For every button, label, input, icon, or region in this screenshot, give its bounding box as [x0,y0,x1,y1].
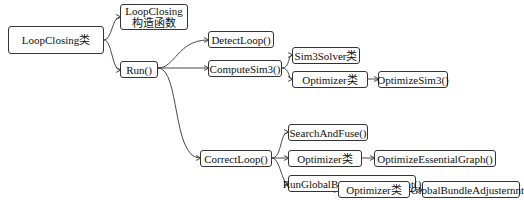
node-optimizeessentialgraph: OptimizeEssentialGraph() [374,150,496,167]
node-detectloop: DetectLoop() [208,31,274,48]
node-optimizer-class-2: Optimizer类 [288,150,362,167]
ctor-line-2: 构造函数 [132,17,176,29]
node-searchandfuse: SearchAndFuse() [288,124,368,141]
node-globalbundleadjustment: GlobalBundleAdjusternnt() [422,181,520,198]
node-computesim3: ComputeSim3() [208,60,282,77]
node-run: Run() [120,61,158,78]
node-correctloop: CorrectLoop() [200,150,272,167]
node-sim3solver-class: Sim3Solver类 [292,47,360,64]
node-optimizer-class-1: Optimizer类 [292,71,368,88]
node-optimizer-class-3: Optimizer类 [338,181,410,198]
ctor-line-1: LoopClosing [125,5,182,17]
node-loopclosing-constructor: LoopClosing 构造函数 [120,4,188,30]
node-optimizesim3: OptimizeSim3() [378,71,448,88]
node-loopclosing-class: LoopClosing类 [8,26,104,54]
